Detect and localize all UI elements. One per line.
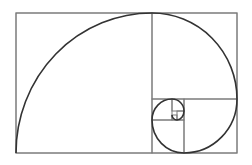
fibonacci-squares xyxy=(16,13,237,153)
square-3 xyxy=(184,99,237,153)
square-1 xyxy=(16,13,152,153)
golden-spiral-diagram xyxy=(0,0,252,165)
square-2 xyxy=(152,13,237,99)
outer-rectangle xyxy=(16,13,237,153)
golden-spiral xyxy=(16,13,237,153)
